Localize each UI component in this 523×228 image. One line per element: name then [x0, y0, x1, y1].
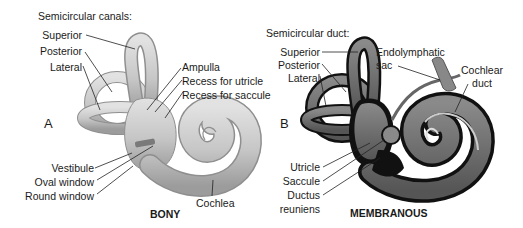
label-superior-duct: Superior: [260, 46, 320, 58]
label-cochlear: Cochlear: [457, 64, 507, 76]
label-recess-saccule: Recess for saccule: [182, 89, 271, 101]
label-oval-window: Oval window: [10, 176, 94, 188]
label-saccule: Saccule: [260, 175, 320, 187]
membranous-header: Semicircular duct:: [266, 27, 349, 39]
label-lateral-canal: Lateral: [20, 61, 82, 73]
label-ductus-reuniens: reuniens: [260, 203, 320, 215]
label-posterior-canal: Posterior: [20, 45, 82, 57]
label-recess-utricle: Recess for utricle: [182, 75, 263, 87]
label-round-window: Round window: [4, 190, 94, 202]
label-endolymphatic: Endolymphatic: [376, 46, 445, 58]
label-utricle: Utricle: [260, 161, 320, 173]
panel-letter-a: A: [44, 118, 53, 130]
label-cochlear-duct: duct: [457, 77, 507, 89]
label-superior-canal: Superior: [20, 29, 82, 41]
label-posterior-duct: Posterior: [260, 59, 320, 71]
label-ampulla: Ampulla: [182, 61, 220, 73]
bony-labyrinth: [83, 39, 251, 186]
label-endolymphatic-sac: sac: [376, 59, 392, 71]
caption-bony: BONY: [150, 208, 180, 220]
label-ductus: Ductus: [260, 189, 320, 201]
label-lateral-duct: Lateral: [260, 72, 320, 84]
panel-letter-b: B: [280, 118, 289, 130]
label-cochlea: Cochlea: [196, 197, 235, 209]
caption-membranous: MEMBRANOUS: [350, 207, 428, 219]
label-vestibule: Vestibule: [10, 162, 94, 174]
bony-header: Semicircular canals:: [38, 10, 132, 22]
